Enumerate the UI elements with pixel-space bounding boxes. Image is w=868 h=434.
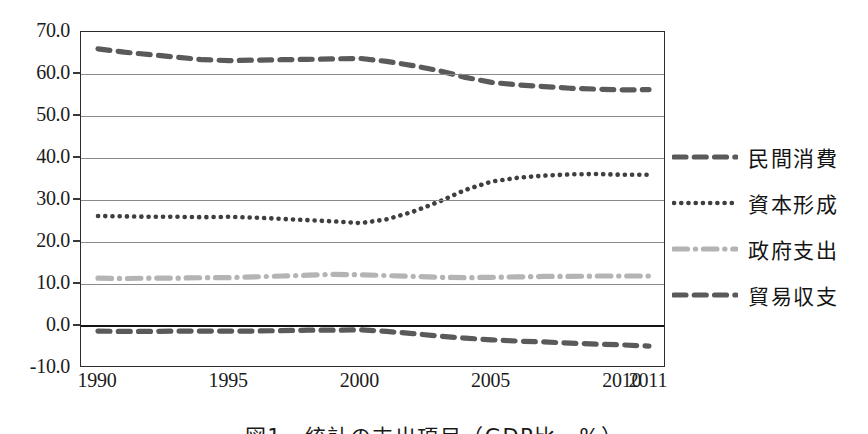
y-tick-mark: [73, 156, 80, 157]
legend-label: 民間消費: [748, 142, 838, 172]
x-tick-label: 2005: [471, 370, 510, 390]
gridline-40: [81, 158, 664, 159]
series-line-0: [98, 49, 649, 90]
gridline-50: [81, 116, 664, 117]
y-tick-label: -10.0: [0, 356, 70, 376]
legend-label: 貿易収支: [748, 280, 838, 310]
chart-legend: 民間消費資本形成政府支出貿易収支: [672, 134, 864, 318]
legend-item-2[interactable]: 政府支出: [672, 226, 864, 272]
y-tick-label: 60.0: [0, 62, 70, 82]
legend-label: 政府支出: [748, 234, 838, 264]
gridline-0: [81, 325, 664, 327]
figure-caption: 図1 統計の支出項目（GDP比、%）: [0, 420, 868, 434]
plot-area: [80, 31, 665, 367]
x-tick-label: 2011: [629, 370, 667, 390]
x-tick-label: 2000: [340, 370, 379, 390]
gridline-30: [81, 200, 664, 201]
y-tick-label: 0.0: [0, 314, 70, 334]
y-tick-label: 20.0: [0, 230, 70, 250]
series-line-2: [98, 274, 649, 278]
y-tick-label: 10.0: [0, 272, 70, 292]
y-tick-mark: [73, 114, 80, 115]
y-tick-mark: [73, 198, 80, 199]
y-tick-label: 30.0: [0, 188, 70, 208]
legend-swatch-icon: [672, 147, 738, 167]
y-tick-mark: [73, 240, 80, 241]
legend-label: 資本形成: [748, 188, 838, 218]
x-tick-label: 1990: [77, 370, 116, 390]
y-tick-label: 70.0: [0, 20, 70, 40]
y-tick-mark: [73, 324, 80, 325]
y-tick-label: 40.0: [0, 146, 70, 166]
y-tick-label: 50.0: [0, 104, 70, 124]
y-tick-mark: [73, 282, 80, 283]
x-tick-label: 1995: [209, 370, 248, 390]
legend-item-0[interactable]: 民間消費: [672, 134, 864, 180]
legend-item-1[interactable]: 資本形成: [672, 180, 864, 226]
gridline-10: [81, 284, 664, 285]
legend-swatch-icon: [672, 193, 738, 213]
y-tick-mark: [73, 72, 80, 73]
gridline-20: [81, 242, 664, 243]
legend-swatch-icon: [672, 239, 738, 259]
chart-figure: 70.060.050.040.030.020.010.00.0-10.0 199…: [0, 0, 868, 434]
series-line-3: [98, 330, 649, 346]
legend-item-3[interactable]: 貿易収支: [672, 272, 864, 318]
legend-swatch-icon: [672, 285, 738, 305]
gridline-60: [81, 74, 664, 75]
